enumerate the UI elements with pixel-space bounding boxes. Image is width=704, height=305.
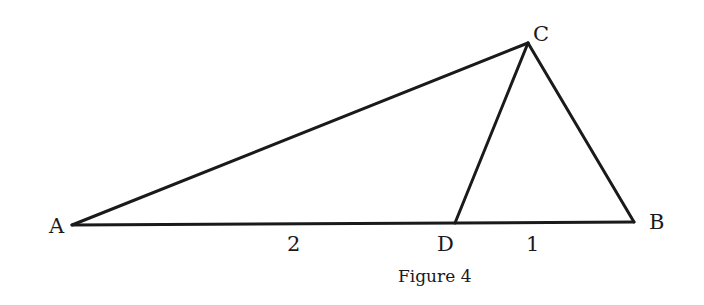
- segment-cb: [528, 43, 634, 222]
- vertex-label-a: A: [49, 216, 64, 237]
- vertex-label-c: C: [533, 24, 549, 45]
- triangle-diagram: [0, 0, 704, 305]
- segment-ab: [72, 222, 634, 225]
- vertex-label-b: B: [649, 212, 664, 233]
- length-label-ad: 2: [287, 234, 300, 255]
- segment-ac: [72, 43, 528, 225]
- segment-cd: [455, 43, 528, 223]
- triangle-figure: A C D B 2 1 Figure 4: [0, 0, 704, 305]
- vertex-label-d: D: [437, 234, 454, 255]
- length-label-db: 1: [526, 234, 539, 255]
- figure-caption: Figure 4: [398, 268, 471, 285]
